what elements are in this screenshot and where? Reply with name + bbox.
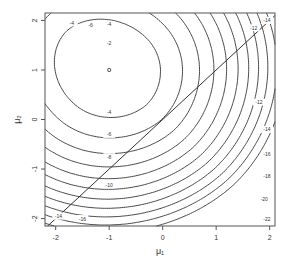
- y-tick-label: 2: [31, 18, 38, 22]
- x-axis: -2-1012: [53, 226, 272, 241]
- y-tick-label: -2: [31, 215, 38, 221]
- maximum-marker: [108, 68, 111, 71]
- contour-label: -14: [55, 213, 62, 219]
- contour-line: [45, 13, 227, 179]
- x-tick-label: 1: [214, 234, 218, 241]
- x-tick-label: 2: [268, 234, 272, 241]
- contour-lines: [45, 13, 275, 226]
- contour-label: -20: [261, 196, 268, 202]
- y-tick-label: 0: [31, 117, 38, 121]
- contour-line: [45, 13, 200, 154]
- contour-label: -6: [107, 131, 112, 137]
- identity-reference-line: [48, 15, 275, 226]
- contour-line: [45, 122, 275, 226]
- contour-line: [45, 13, 214, 167]
- contour-label: -10: [106, 182, 113, 188]
- x-tick-label: -1: [106, 234, 112, 241]
- y-axis: -2-1012: [31, 18, 45, 221]
- contour-label: -16: [263, 151, 270, 157]
- contour-label: -4: [70, 20, 75, 26]
- x-axis-label: μ₁: [156, 246, 164, 256]
- contour-line: [45, 13, 249, 199]
- contour-label: -22: [263, 216, 270, 222]
- contour-label: -12: [255, 99, 262, 105]
- y-tick-label: 1: [31, 68, 38, 72]
- contour-plot: 0-2-4-4-6-8-10-12-14-12-14-16-18-20-22-4…: [0, 0, 290, 272]
- contour-label: -12: [250, 25, 257, 31]
- plot-frame: [45, 13, 275, 226]
- contour-label: -18: [263, 173, 270, 179]
- contour-label: -6: [88, 22, 93, 28]
- contour-label: -8: [107, 154, 112, 160]
- contour-label: -16: [79, 216, 86, 222]
- y-axis-label: μ₂: [12, 115, 22, 124]
- contour-label: -4: [107, 21, 112, 27]
- contour-label: -2: [107, 40, 112, 46]
- contour-label: -14: [263, 126, 270, 132]
- contour-line: [45, 13, 259, 208]
- contour-label: -4: [107, 109, 112, 115]
- contour-label: -14: [263, 17, 270, 23]
- contour-line: [45, 13, 275, 225]
- chart-container: 0-2-4-4-6-8-10-12-14-12-14-16-18-20-22-4…: [0, 0, 290, 272]
- x-tick-label: -2: [53, 234, 59, 241]
- x-tick-label: 0: [161, 234, 165, 241]
- y-tick-label: -1: [31, 166, 38, 172]
